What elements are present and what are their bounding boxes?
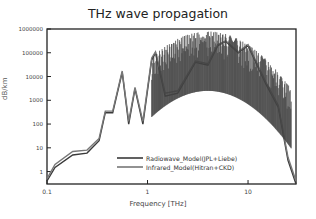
y-tick-label: 1000 [29,97,43,103]
legend-label: Infrared_Model(Hitran+CKD) [146,164,234,172]
y-tick-label: 1 [40,169,44,175]
chart-plot: 11010010001000010000010000000.1110Radiow… [0,0,316,219]
x-axis-label: Frequency [THz] [0,200,316,208]
absorption-band [152,32,292,149]
y-tick-label: 100 [33,121,44,127]
x-tick-label: 10 [244,188,252,195]
y-tick-label: 10000 [26,74,44,80]
y-tick-label: 100000 [22,50,43,56]
y-axis-label: dB/km [1,78,9,100]
x-tick-label: 0.1 [42,188,52,195]
x-tick-label: 1 [146,188,150,195]
y-tick-label: 1000000 [19,26,44,32]
y-tick-label: 10 [36,145,43,151]
legend-label: Radiowave_Model(JPL+Liebe) [146,155,237,163]
